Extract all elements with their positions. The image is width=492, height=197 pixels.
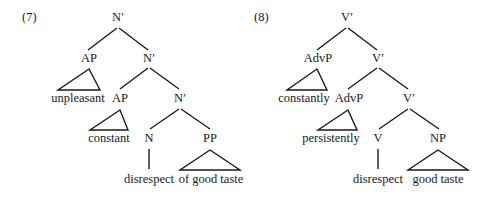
edge [317, 28, 346, 50]
node-bar: V′ [403, 91, 415, 105]
triangle [408, 150, 468, 170]
edge [150, 68, 179, 89]
edge [120, 68, 148, 89]
syntax-trees: (7) N′ AP unpleasant N′ AP constant N′ N… [0, 0, 492, 197]
tree-7: (7) N′ AP unpleasant N′ AP constant N′ N… [22, 10, 244, 186]
node-bar: N′ [174, 91, 186, 105]
triangle [90, 110, 128, 130]
triangle [318, 110, 357, 130]
example-number: (8) [254, 10, 269, 24]
edge [410, 109, 439, 129]
node-root: N′ [112, 10, 124, 24]
node-comp: PP [203, 131, 217, 145]
node-comp: NP [430, 131, 446, 145]
leaf-word: constant [88, 131, 130, 145]
edge [150, 109, 179, 129]
node-ap: AdvP [304, 51, 333, 65]
node-head: N [144, 131, 153, 145]
example-number: (7) [22, 10, 37, 24]
node-root: V′ [341, 10, 353, 24]
node-bar: N′ [143, 51, 155, 65]
node-ap: AP [81, 51, 97, 65]
edge [348, 68, 377, 89]
leaf-word: constantly [278, 91, 330, 105]
edge [181, 109, 210, 129]
node-ap: AdvP [335, 91, 364, 105]
edge [379, 68, 408, 89]
tree-8: (8) V′ AdvP constantly V′ AdvP persisten… [254, 10, 468, 186]
leaf-word: disrespect [124, 172, 175, 186]
node-bar: V′ [372, 51, 384, 65]
edge [88, 28, 117, 50]
leaf-word: persistently [302, 131, 360, 145]
leaf-word: good taste [412, 172, 463, 186]
triangle [58, 69, 100, 90]
triangle [180, 150, 240, 170]
leaf-word: disrespect [353, 172, 404, 186]
node-ap: AP [112, 91, 128, 105]
edge [348, 28, 377, 50]
node-head: V [373, 131, 382, 145]
triangle [287, 69, 327, 90]
leaf-word: of good taste [179, 172, 244, 186]
edge [379, 109, 408, 129]
edge [119, 28, 148, 50]
leaf-word: unpleasant [51, 91, 105, 105]
